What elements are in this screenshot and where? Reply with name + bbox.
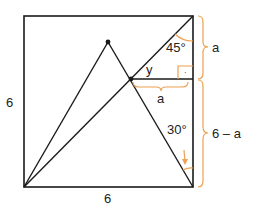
angle-arc-30	[183, 168, 193, 170]
apex-point	[106, 40, 111, 45]
label-angle-y: y	[146, 62, 153, 77]
label-a-horizontal: a	[157, 91, 165, 106]
angle-30-arrowhead	[182, 159, 188, 165]
label-left-side: 6	[6, 95, 13, 110]
brace-a-horizontal	[133, 82, 188, 91]
geometry-diagram: · 6 6 45° y a a 6 – a 30°	[0, 0, 257, 206]
brace-6-minus-a	[198, 80, 208, 187]
right-angle-dot: ·	[184, 68, 187, 77]
label-a-vertical: a	[212, 40, 220, 55]
brace-a-vertical	[198, 16, 208, 79]
intersection-point	[129, 77, 134, 82]
label-bottom-side: 6	[104, 191, 111, 206]
label-angle-45: 45°	[166, 40, 186, 55]
label-angle-30: 30°	[167, 122, 187, 137]
label-6-minus-a: 6 – a	[212, 126, 242, 141]
